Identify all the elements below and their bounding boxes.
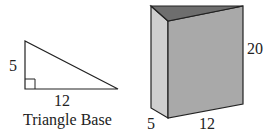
prism-side-face	[151, 6, 168, 118]
triangle-base-figure: 5 12 Triangle Base	[9, 41, 118, 129]
prism-width-label: 12	[199, 115, 215, 132]
prism-height-label: 20	[247, 40, 263, 57]
prism-front-face	[168, 6, 243, 118]
diagram-canvas: 5 12 Triangle Base 20 5 12	[0, 0, 279, 136]
triangle-caption: Triangle Base	[23, 111, 112, 129]
triangle-base-label: 12	[54, 92, 70, 109]
triangular-prism-figure: 20 5 12	[147, 6, 263, 132]
prism-depth-label: 5	[147, 115, 155, 132]
triangle-height-label: 5	[9, 57, 17, 74]
right-triangle	[25, 41, 118, 89]
